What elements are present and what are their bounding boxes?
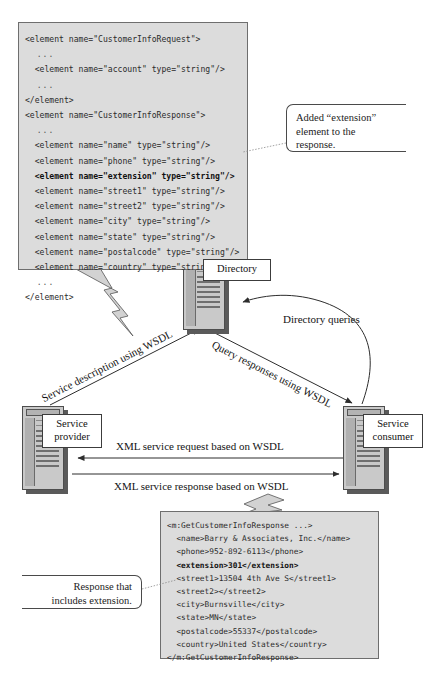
flow-label-xml-response: XML service response based on WSDL <box>114 480 288 492</box>
flow-label-query-responses: Query responses using WSDL <box>210 338 334 409</box>
code-line: </m:GetCustomerInfoResponse> <box>167 651 378 664</box>
code-line: ... <box>25 78 247 93</box>
label-directory-text: Directory <box>217 263 257 274</box>
code-line: <country>United States</country> <box>167 638 378 651</box>
callout-text-line: Added “extension” <box>296 111 406 125</box>
wsdl-code-block: <element name="CustomerInfoRequest"> ...… <box>18 22 248 270</box>
code-line: <element name="state" type="string"/> <box>25 230 247 245</box>
code-line: <element name="CustomerInfoResponse"> <box>25 108 247 123</box>
code-line: ... <box>25 123 247 138</box>
code-line: <street2></street2> <box>167 585 378 598</box>
response-code-block: <m:GetCustomerInfoResponse ...> <name>Ba… <box>160 511 379 659</box>
label-directory: Directory <box>203 259 271 281</box>
code-line: <m:GetCustomerInfoResponse ...> <box>167 519 378 532</box>
code-line: <element name="phone" type="string"/> <box>25 154 247 169</box>
flow-label-xml-request: XML service request based on WSDL <box>116 440 284 452</box>
callout-text-line: Response that <box>22 580 132 594</box>
code-line: <element name="street1" type="string"/> <box>25 184 247 199</box>
label-service-provider-line1: Service <box>56 418 88 429</box>
leader-line-added-extension <box>243 143 286 152</box>
callout-text-line: element to the <box>296 125 406 139</box>
code-line: </element> <box>25 290 247 305</box>
code-line-highlighted: <element name="extension" type="string"/… <box>25 169 247 184</box>
code-line: <element name="account" type="string"/> <box>25 62 247 77</box>
callout-text-line: includes extension. <box>22 594 132 608</box>
code-line: <element name="street2" type="string"/> <box>25 199 247 214</box>
label-service-consumer-line2: consumer <box>373 431 414 442</box>
label-service-consumer-line1: Service <box>377 418 409 429</box>
server-side-panel <box>25 418 35 486</box>
callout-response-includes-extension: Response that includes extension. <box>22 575 142 609</box>
label-service-provider: Service provider <box>42 414 102 448</box>
code-line: <city>Burnsville</city> <box>167 598 378 611</box>
label-service-provider-line2: provider <box>54 431 90 442</box>
code-line: ... <box>25 47 247 62</box>
code-line: <element name="CustomerInfoRequest"> <box>25 32 247 47</box>
code-line: <element name="city" type="string"/> <box>25 214 247 229</box>
label-service-consumer: Service consumer <box>363 414 423 448</box>
flow-label-directory-queries: Directory queries <box>283 313 360 325</box>
code-line: <name>Barry & Associates, Inc.</name> <box>167 532 378 545</box>
flow-label-service-description: Service description using WSDL <box>40 328 175 404</box>
code-line: <element name="name" type="string"/> <box>25 138 247 153</box>
code-line-highlighted: <extension>301</extension> <box>167 559 378 572</box>
arrow-service-description <box>50 329 199 405</box>
callout-added-extension: Added “extension” element to the respons… <box>286 104 406 152</box>
code-line: <state>MN</state> <box>167 611 378 624</box>
code-line: <postalcode>55337</postalcode> <box>167 625 378 638</box>
callout-text-line: response. <box>296 138 406 152</box>
code-line: <street1>13504 4th Ave S</street1> <box>167 572 378 585</box>
code-line: <element name="postalcode" type="string"… <box>25 245 247 260</box>
arrow-query-responses <box>207 329 352 403</box>
server-side-panel <box>346 418 356 486</box>
code-line: </element> <box>25 93 247 108</box>
code-line: <phone>952-892-6113</phone> <box>167 545 378 558</box>
